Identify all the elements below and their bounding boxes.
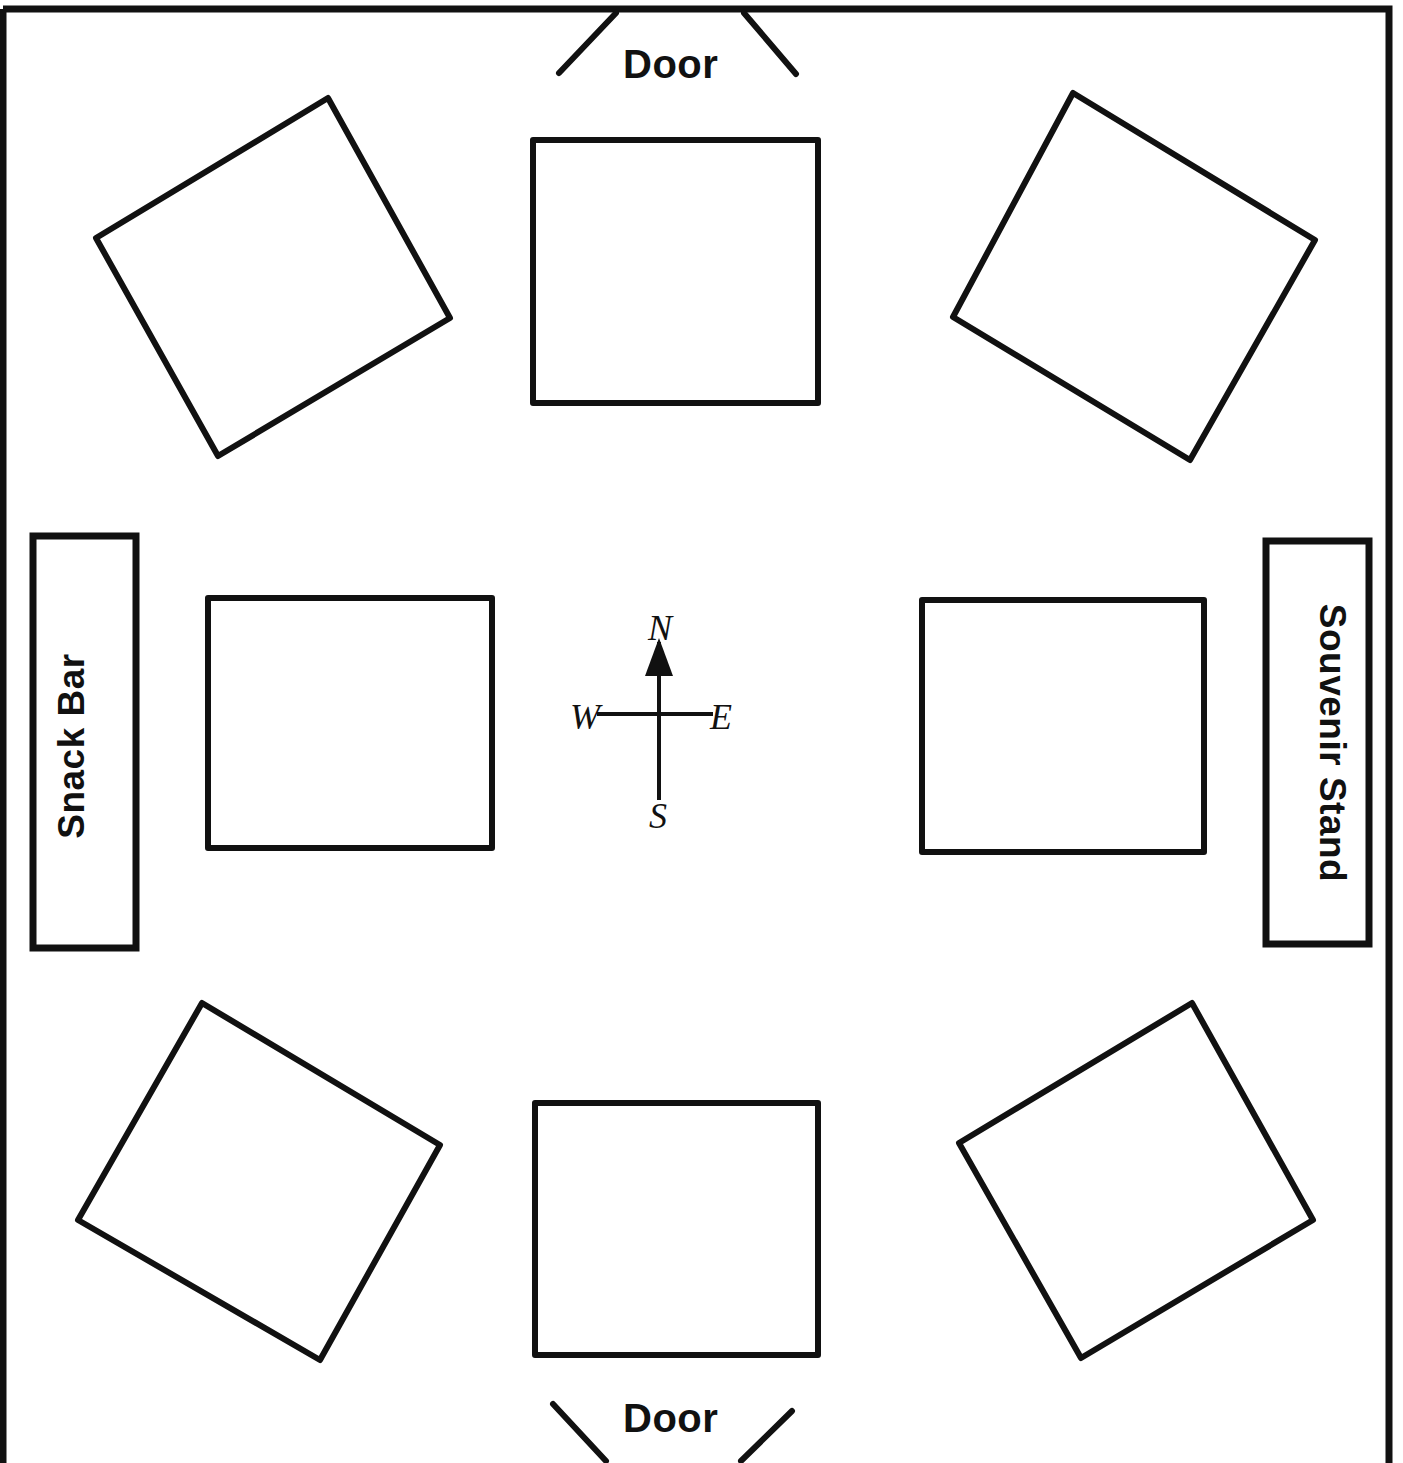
compass-east-label: E bbox=[710, 696, 732, 738]
snack-bar-label: Snack Bar bbox=[51, 653, 93, 839]
door-swing-line bbox=[559, 13, 616, 73]
table-shape[interactable] bbox=[953, 93, 1315, 460]
door-label-south: Door bbox=[623, 1396, 718, 1441]
door-swing-line bbox=[553, 1404, 606, 1461]
floor-plan-drawing bbox=[0, 0, 1403, 1463]
door-label-north: Door bbox=[623, 42, 718, 87]
compass-rose bbox=[597, 638, 713, 800]
table-shape[interactable] bbox=[96, 98, 450, 456]
souvenir-stand-label: Souvenir Stand bbox=[1311, 604, 1353, 882]
door-swing-line bbox=[744, 13, 796, 74]
table-shape[interactable] bbox=[533, 140, 818, 403]
table-shape[interactable] bbox=[535, 1103, 818, 1355]
table-shape[interactable] bbox=[959, 1003, 1313, 1358]
floor-plan-canvas: Display Hall Door Door Snack Bar Souveni… bbox=[0, 0, 1403, 1463]
table-shape[interactable] bbox=[78, 1003, 440, 1360]
compass-south-label: S bbox=[649, 795, 667, 837]
compass-west-label: W bbox=[570, 696, 600, 738]
door-swing-line bbox=[741, 1411, 792, 1461]
table-shape[interactable] bbox=[208, 598, 492, 848]
compass-north-label: N bbox=[648, 607, 672, 649]
table-shape[interactable] bbox=[922, 600, 1204, 852]
